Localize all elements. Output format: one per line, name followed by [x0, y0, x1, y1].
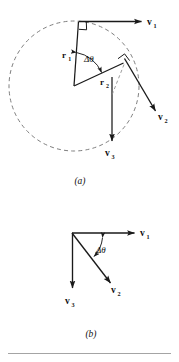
label-v2-subscript-a: 2: [165, 117, 168, 124]
right-angle-marker-top: [79, 22, 87, 30]
dashed-construction-line: [112, 65, 124, 96]
vector-v2: [125, 59, 156, 112]
label-r2: r: [100, 77, 104, 87]
label-delta-theta-a: Δθ: [83, 54, 94, 64]
label-r1-subscript: 1: [68, 56, 71, 62]
label-v1-a: v: [147, 17, 152, 27]
label-r2-subscript: 2: [106, 83, 109, 89]
label-r1: r: [62, 50, 66, 60]
label-v2-b: v: [111, 285, 116, 295]
label-v1-b: v: [140, 228, 145, 238]
label-v1-subscript-a: 1: [154, 22, 157, 29]
caption-panel-a: (a): [74, 176, 85, 187]
label-v2-a: v: [158, 112, 163, 122]
figure-root: r 1 r 2 Δθ v 1 v 2 v 3 (a): [0, 0, 179, 362]
label-v3-subscript-b: 3: [72, 301, 75, 308]
label-v2-subscript-b: 2: [118, 290, 121, 297]
panel-a: r 1 r 2 Δθ v 1 v 2 v 3 (a): [9, 17, 168, 187]
right-angle-marker-r2: [118, 54, 130, 61]
label-v3-b: v: [65, 296, 70, 306]
physics-vector-figure: r 1 r 2 Δθ v 1 v 2 v 3 (a): [0, 0, 179, 362]
radius-vector-r1: [74, 22, 79, 87]
label-v1-subscript-b: 1: [147, 233, 150, 240]
vector-v2-b: [72, 233, 111, 283]
panel-b: Δθ v 1 v 2 v 3 (b): [65, 228, 150, 340]
caption-panel-b: (b): [85, 329, 96, 340]
label-v3-a: v: [105, 148, 110, 158]
label-delta-theta-b: Δθ: [95, 245, 106, 255]
label-v3-subscript-a: 3: [112, 153, 115, 160]
